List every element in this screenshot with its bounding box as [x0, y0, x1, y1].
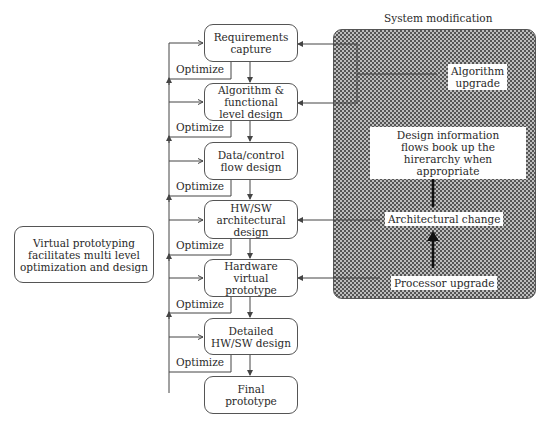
- optimize-label: Optimize: [176, 356, 224, 368]
- optimize-label: Optimize: [176, 298, 224, 310]
- step-requirements-capture: Requirements capture: [204, 24, 298, 62]
- step-final-prototype: Final prototype: [204, 376, 298, 414]
- optimize-label: Optimize: [176, 63, 224, 75]
- virtual-prototyping-note: Virtual prototyping facilitates multi le…: [14, 226, 154, 283]
- optimize-label: Optimize: [176, 121, 224, 133]
- step-algorithm-functional-design: Algorithm & functional level design: [204, 83, 298, 121]
- step-hw-sw-architectural-design: HW/SW architectural design: [204, 200, 298, 239]
- architectural-change-label: Architectural change: [385, 212, 503, 226]
- processor-upgrade-label: Processor upgrade: [391, 276, 497, 290]
- design-info-flow-label: Design information flows book up the hir…: [370, 127, 526, 179]
- optimize-label: Optimize: [176, 180, 224, 192]
- step-detailed-hw-sw-design: Detailed HW/SW design: [204, 318, 298, 355]
- step-data-control-flow-design: Data/control flow design: [204, 142, 298, 180]
- algorithm-upgrade-label: Algorithm upgrade: [448, 64, 507, 90]
- step-hardware-virtual-prototype: Hardware virtual prototype: [204, 259, 298, 297]
- optimize-label: Optimize: [176, 239, 224, 251]
